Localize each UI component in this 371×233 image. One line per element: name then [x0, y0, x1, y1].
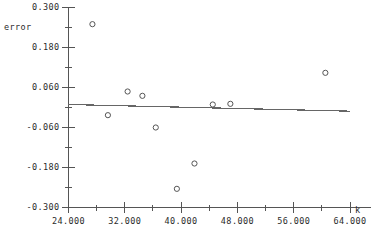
y-axis-tick-label: -0.180	[26, 162, 59, 172]
y-axis-title: error	[4, 22, 32, 32]
y-axis-tick-label: 0.300	[32, 2, 60, 12]
y-axis-tick-label: 0.060	[32, 82, 60, 92]
data-point-marker	[153, 125, 158, 130]
plot-canvas	[0, 0, 371, 233]
x-axis-tick-label: 64.000	[333, 216, 366, 226]
data-point-marker	[210, 102, 215, 107]
x-axis-tick-label: 32.000	[108, 216, 141, 226]
x-axis-tick-label: 48.000	[221, 216, 254, 226]
x-axis-tick-label: 56.000	[277, 216, 310, 226]
data-point-marker	[174, 186, 179, 191]
x-axis-tick-label: 40.000	[165, 216, 198, 226]
data-point-marker	[228, 101, 233, 106]
regression-line	[69, 105, 351, 112]
y-axis-tick-label: -0.060	[26, 122, 59, 132]
scatter-plot-figure: 0.3000.1800.060-0.060-0.180-0.30024.0003…	[0, 0, 371, 233]
y-axis-tick-label: 0.180	[32, 42, 60, 52]
data-point-marker	[90, 22, 95, 27]
x-axis-tick-label: 24.000	[52, 216, 85, 226]
data-point-marker	[105, 113, 110, 118]
y-axis-tick-label: -0.300	[26, 202, 59, 212]
data-point-marker	[125, 89, 130, 94]
data-point-marker	[140, 93, 145, 98]
x-axis-title: k	[355, 205, 361, 215]
data-point-marker	[323, 70, 328, 75]
data-point-marker	[192, 161, 197, 166]
